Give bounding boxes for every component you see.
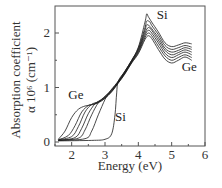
y-tick-label: 2: [44, 25, 51, 40]
x-tick-label: 2: [68, 147, 75, 162]
curve-label: Si: [157, 7, 168, 22]
y-axis-title-line2: α 10⁶ (cm⁻¹): [23, 47, 38, 113]
x-tick-label: 6: [202, 147, 209, 162]
y-tick-label: 1: [44, 80, 51, 95]
y-tick-label: 0: [44, 134, 51, 149]
curve-label: Si: [115, 109, 126, 124]
curve-annotations: SiGeGeSi: [68, 7, 197, 124]
y-axis-title-line1: Absorption coefficient: [8, 21, 23, 138]
curve-label: Ge: [182, 59, 197, 74]
x-tick-label: 5: [168, 147, 175, 162]
curve-label: Ge: [68, 87, 83, 102]
x-axis-title: Energy (eV): [98, 158, 162, 173]
plot-frame: [55, 6, 205, 146]
absorption-chart: 23456012 Energy (eV) Absorption coeffici…: [0, 0, 222, 188]
